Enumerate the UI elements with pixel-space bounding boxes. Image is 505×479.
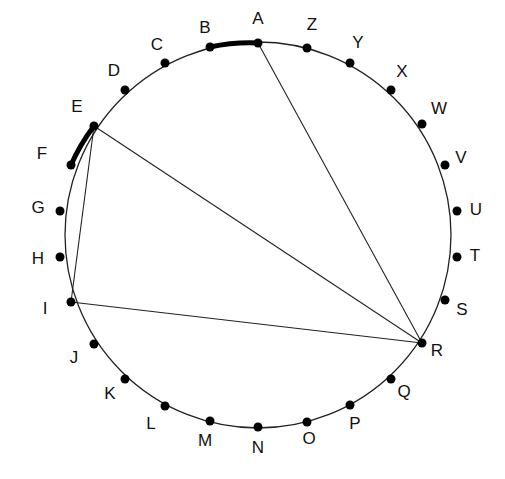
- point-e: [90, 122, 99, 131]
- thick-arc-b-a: [210, 43, 258, 47]
- label-g: G: [31, 198, 44, 217]
- point-s: [441, 296, 450, 305]
- label-n: N: [252, 438, 264, 457]
- label-h: H: [32, 249, 44, 268]
- label-c: C: [151, 35, 163, 54]
- label-k: K: [104, 384, 116, 403]
- label-y: Y: [352, 33, 363, 52]
- circle-diagram: AZYXWVUTSRQPONMLKJIHGFEDCB: [0, 0, 505, 479]
- point-c: [161, 59, 170, 68]
- label-z: Z: [307, 15, 317, 34]
- label-a: A: [252, 9, 264, 28]
- label-q: Q: [397, 382, 410, 401]
- diagram-canvas: AZYXWVUTSRQPONMLKJIHGFEDCB: [0, 0, 505, 479]
- label-v: V: [455, 148, 467, 167]
- point-x: [387, 86, 396, 95]
- point-v: [441, 161, 450, 170]
- label-m: M: [198, 431, 212, 450]
- label-l: L: [146, 414, 155, 433]
- label-f: F: [37, 144, 47, 163]
- label-e: E: [71, 97, 82, 116]
- label-x: X: [396, 62, 407, 81]
- point-m: [206, 417, 215, 426]
- label-s: S: [456, 300, 467, 319]
- point-a: [254, 39, 263, 48]
- point-b: [206, 43, 215, 52]
- label-o: O: [302, 429, 315, 448]
- point-i: [67, 298, 76, 307]
- point-g: [56, 207, 65, 216]
- point-t: [453, 253, 462, 262]
- chord-a-r: [258, 43, 422, 343]
- point-w: [418, 120, 427, 129]
- point-f: [67, 161, 76, 170]
- point-r: [418, 339, 427, 348]
- label-r: R: [431, 341, 443, 360]
- label-t: T: [470, 246, 480, 265]
- point-p: [346, 401, 355, 410]
- point-k: [121, 375, 130, 384]
- label-w: W: [431, 99, 447, 118]
- point-d: [121, 86, 130, 95]
- point-n: [254, 423, 263, 432]
- point-h: [56, 253, 65, 262]
- label-b: B: [199, 18, 210, 37]
- point-z: [303, 44, 312, 53]
- point-o: [303, 418, 312, 427]
- label-u: U: [470, 200, 482, 219]
- point-q: [387, 375, 396, 384]
- point-l: [161, 402, 170, 411]
- label-p: P: [349, 414, 360, 433]
- point-u: [453, 207, 462, 216]
- label-d: D: [108, 61, 120, 80]
- thick-arc-f-e: [71, 126, 94, 165]
- label-i: I: [43, 299, 48, 318]
- label-j: J: [70, 348, 79, 367]
- point-y: [346, 59, 355, 68]
- point-j: [90, 340, 99, 349]
